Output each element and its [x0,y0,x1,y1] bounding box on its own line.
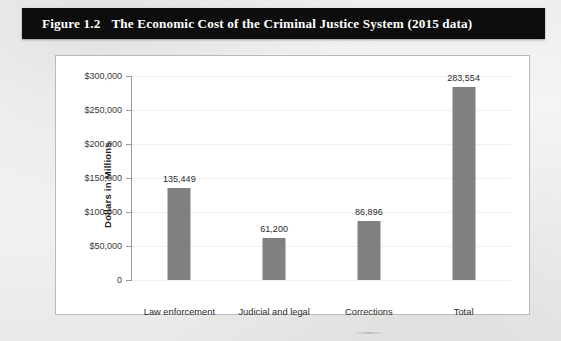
y-axis-tick [126,212,131,213]
y-axis-tick-label: $200,000 [84,139,122,149]
y-axis-tick-label: $50,000 [89,241,122,251]
bar-group: 86,896 [322,76,417,280]
y-axis-tick-label: $300,000 [84,71,122,81]
x-axis-category-label: Total [454,307,474,317]
y-axis-tick-label: $150,000 [84,173,122,183]
y-axis-tick-label: 0 [117,275,122,285]
figure-title-text: The Economic Cost of the Criminal Justic… [111,16,472,31]
plot-area: Law enforcement135,449Judicial and legal… [132,76,511,280]
bar-group: 135,449 [132,76,227,280]
chart-panel: Dollars in Millions 0$50,000$100,000$150… [55,55,530,315]
y-axis-tick-label: $250,000 [84,105,122,115]
bar-value-label: 283,554 [447,73,480,83]
x-axis-category-label: Judicial and legal [238,307,309,317]
y-axis-tick [126,280,131,281]
figure-header-bar: Figure 1.2The Economic Cost of the Crimi… [22,8,545,39]
bar-group: 283,554 [416,76,511,280]
bar-value-label: 86,896 [355,207,383,217]
bar [168,188,191,280]
gridline [132,280,511,281]
y-axis-tick [126,76,131,77]
y-axis-tick-labels: 0$50,000$100,000$150,000$200,000$250,000… [56,56,122,314]
figure-container: Figure 1.2The Economic Cost of the Crimi… [0,0,561,341]
x-axis-category-label: Law enforcement [144,307,215,317]
bar-group: 61,200 [227,76,322,280]
bar-value-label: 61,200 [260,224,288,234]
y-axis-tick [126,110,131,111]
bar [357,221,380,280]
y-axis-tick-label: $100,000 [84,207,122,217]
x-axis-category-label: Corrections [345,307,393,317]
bar-value-label: 135,449 [163,174,196,184]
y-axis-tick [126,246,131,247]
figure-number: Figure 1.2 [42,16,100,31]
y-axis-tick [126,144,131,145]
figure-title: Figure 1.2The Economic Cost of the Crimi… [42,16,472,32]
scan-artifact [352,332,386,334]
y-axis-tick [126,178,131,179]
bar [452,87,475,280]
bar [263,238,286,280]
